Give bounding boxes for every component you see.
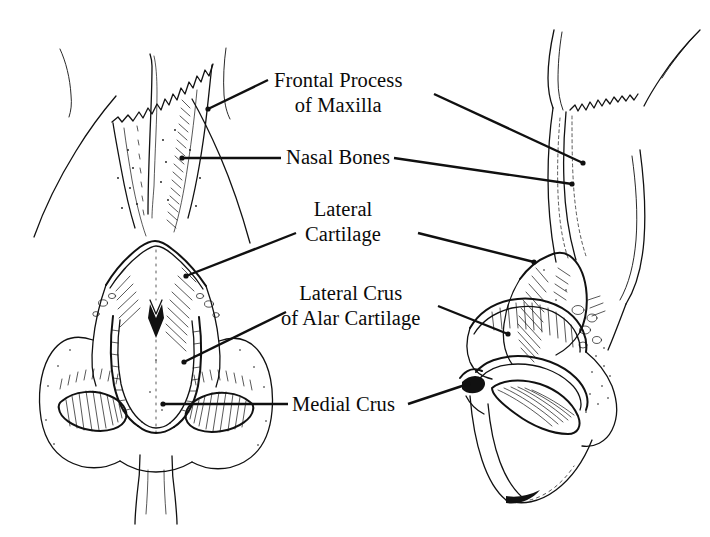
label-nasal-bones-line1: Nasal Bones bbox=[286, 145, 390, 170]
leader-medial-crus-right bbox=[408, 381, 471, 404]
leader-nasal-bones-left bbox=[179, 155, 281, 160]
label-medial-crus: Medial Crus bbox=[292, 392, 395, 417]
label-lateral-crus-line1: Lateral Crus bbox=[281, 281, 420, 306]
label-lateral-cartilage-line1: Lateral bbox=[305, 197, 381, 222]
label-frontal-process: Frontal Process of Maxilla bbox=[274, 68, 402, 118]
leader-frontal-process-left bbox=[205, 80, 268, 112]
anatomical-figure: Frontal Process of Maxilla Nasal Bones L… bbox=[0, 0, 710, 537]
label-lateral-crus-line2: of Alar Cartilage bbox=[281, 306, 420, 331]
leader-frontal-process-right bbox=[434, 94, 586, 166]
label-lateral-cartilage-line2: Cartilage bbox=[305, 222, 381, 247]
label-frontal-process-line2: of Maxilla bbox=[274, 93, 402, 118]
leader-lateral-crus-right bbox=[438, 306, 511, 337]
naris-right bbox=[186, 392, 254, 432]
leader-lateral-cartilage-left bbox=[183, 233, 296, 279]
leader-lateral-crus-left bbox=[181, 312, 286, 365]
frontal-view-drawing bbox=[34, 48, 273, 524]
leader-lateral-cartilage-right bbox=[418, 233, 537, 265]
lateral-view-drawing bbox=[460, 30, 700, 503]
naris-left bbox=[59, 391, 127, 431]
label-nasal-bones: Nasal Bones bbox=[286, 145, 390, 170]
label-lateral-cartilage: Lateral Cartilage bbox=[305, 197, 381, 247]
label-medial-crus-line1: Medial Crus bbox=[292, 392, 395, 417]
label-lateral-crus: Lateral Crus of Alar Cartilage bbox=[281, 281, 420, 331]
label-frontal-process-line1: Frontal Process bbox=[274, 68, 402, 93]
